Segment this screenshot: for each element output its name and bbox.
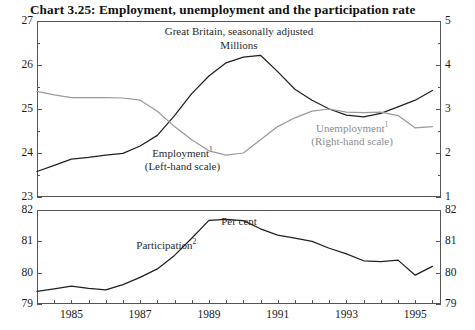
y2-tick-label: 1 — [445, 191, 451, 203]
y2-tick-major — [436, 109, 441, 110]
y2-tick-minor — [438, 131, 441, 132]
y2-tick-major — [436, 21, 441, 22]
y-tick-minor — [37, 87, 40, 88]
y2-tick-label: 82 — [445, 204, 457, 216]
x-tick — [261, 300, 262, 304]
lower-chart-panel: Per cent Participation2 79 80 81 82 79 8… — [37, 210, 441, 304]
y2-tick-label: 2 — [445, 147, 451, 159]
unemployment-line — [37, 91, 432, 155]
lower-series-layer — [37, 210, 441, 304]
x-tick — [381, 300, 382, 304]
y2-tick-label: 5 — [445, 15, 451, 27]
x-tick — [346, 300, 347, 304]
y2-tick-major — [436, 210, 441, 211]
x-tick — [364, 300, 365, 304]
y2-tick-major — [436, 197, 441, 198]
y2-tick-major — [436, 153, 441, 154]
x-tick — [278, 300, 279, 304]
x-tick — [226, 300, 227, 304]
y2-tick-label: 80 — [445, 267, 457, 279]
participation-line — [37, 219, 432, 291]
y-tick-major — [37, 197, 42, 198]
x-tick — [123, 300, 124, 304]
y-tick-label: 25 — [22, 103, 34, 115]
y2-tick-minor — [438, 87, 441, 88]
y-tick-label: 26 — [22, 59, 34, 71]
x-tick-label: 1989 — [197, 308, 220, 320]
y-tick-label: 23 — [22, 191, 34, 203]
y-tick-label: 80 — [22, 267, 34, 279]
x-tick — [106, 300, 107, 304]
x-tick-label: 1987 — [129, 308, 152, 320]
page-title: Chart 3.25: Employment, unemployment and… — [30, 2, 415, 18]
x-tick-label: 1993 — [335, 308, 358, 320]
y2-tick-label: 4 — [445, 59, 451, 71]
x-tick — [432, 300, 433, 304]
y2-tick-major — [436, 273, 441, 274]
y2-tick-label: 3 — [445, 103, 451, 115]
y-tick-minor — [37, 175, 40, 176]
x-tick — [398, 300, 399, 304]
y-tick-major — [37, 21, 42, 22]
x-tick — [192, 300, 193, 304]
y2-tick-major — [436, 65, 441, 66]
y-tick-label: 82 — [22, 204, 34, 216]
x-tick — [89, 300, 90, 304]
y-tick-major — [37, 241, 42, 242]
y-tick-major — [37, 65, 42, 66]
upper-chart-panel: Great Britain, seasonally adjusted Milli… — [37, 21, 441, 197]
chart-figure: Chart 3.25: Employment, unemployment and… — [0, 0, 475, 330]
x-tick — [312, 300, 313, 304]
y2-tick-major — [436, 241, 441, 242]
y-tick-label: 27 — [22, 15, 34, 27]
x-tick — [140, 300, 141, 304]
y2-tick-minor — [438, 175, 441, 176]
x-tick-label: 1985 — [60, 308, 83, 320]
y2-tick-label: 79 — [445, 298, 457, 310]
x-tick — [209, 300, 210, 304]
y-tick-major — [37, 153, 42, 154]
y-tick-minor — [37, 43, 40, 44]
y2-tick-label: 81 — [445, 236, 457, 248]
x-tick — [54, 300, 55, 304]
y-tick-major — [37, 210, 42, 211]
x-tick — [329, 300, 330, 304]
y-tick-label: 79 — [22, 298, 34, 310]
x-tick — [175, 300, 176, 304]
y2-tick-minor — [438, 43, 441, 44]
y-tick-minor — [37, 131, 40, 132]
y-tick-label: 24 — [22, 147, 34, 159]
upper-series-layer — [37, 21, 441, 197]
x-tick-label: 1991 — [266, 308, 289, 320]
y-tick-major — [37, 109, 42, 110]
x-tick — [157, 300, 158, 304]
x-tick — [71, 300, 72, 304]
x-tick — [243, 300, 244, 304]
y-tick-major — [37, 304, 42, 305]
x-tick — [295, 300, 296, 304]
y-tick-major — [37, 273, 42, 274]
y2-tick-major — [436, 304, 441, 305]
x-tick — [415, 300, 416, 304]
y-tick-label: 81 — [22, 236, 34, 248]
x-tick-label: 1995 — [404, 308, 427, 320]
